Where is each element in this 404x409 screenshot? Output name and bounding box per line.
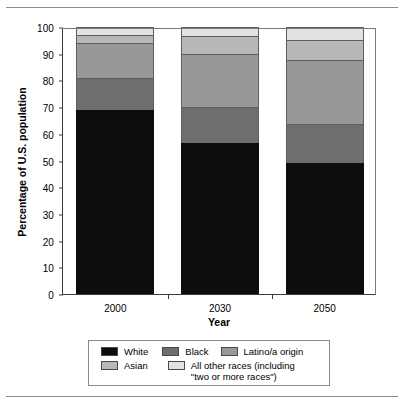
legend-item-label: Black (185, 346, 208, 357)
y-axis-tick-mark (59, 214, 63, 215)
y-axis-label-container: Percentage of U.S. population (14, 28, 30, 295)
legend-item-label: Latino/a origin (244, 346, 304, 357)
legend-item-label: Asian (124, 360, 148, 371)
x-axis-tick-label: 2000 (104, 303, 126, 314)
y-axis-label: Percentage of U.S. population (16, 87, 28, 236)
x-axis-tick-mark (272, 295, 273, 299)
top-divider-rule (6, 7, 398, 8)
y-axis-tick-mark (59, 188, 63, 189)
y-axis-tick-mark (59, 295, 63, 296)
bar-segment (181, 54, 259, 107)
plot-area: 0102030405060708090100200020302050 (62, 28, 376, 295)
bar-segment (76, 43, 154, 78)
legend-item: Black (162, 346, 208, 357)
bar-2050 (286, 27, 364, 294)
bar-2030 (181, 27, 259, 294)
x-axis-tick-mark (168, 295, 169, 299)
bar-segment (286, 27, 364, 40)
y-axis-tick-mark (59, 134, 63, 135)
bar-segment (181, 27, 259, 36)
y-axis-tick-mark (59, 161, 63, 162)
bar-segment (286, 40, 364, 60)
y-axis-tick-mark (59, 54, 63, 55)
legend-color-swatch (162, 347, 179, 356)
legend-item: Latino/a origin (221, 346, 304, 357)
bar-segment (76, 78, 154, 110)
y-axis-tick-mark (59, 81, 63, 82)
legend-item: All other races (including "two or more … (168, 360, 295, 382)
chart-legend: WhiteBlackLatino/a origin AsianAll other… (88, 340, 330, 386)
y-axis-tick-mark (59, 108, 63, 109)
legend-color-swatch (101, 347, 118, 356)
legend-row-2: AsianAll other races (including "two or … (89, 360, 329, 382)
bar-segment (181, 36, 259, 53)
bar-2000 (76, 27, 154, 294)
bar-segment (76, 110, 154, 294)
legend-row-1: WhiteBlackLatino/a origin (89, 346, 329, 357)
legend-item: Asian (101, 360, 148, 371)
legend-item: White (101, 346, 148, 357)
x-axis-tick-label: 2030 (209, 303, 231, 314)
y-axis-tick-mark (59, 28, 63, 29)
bar-segment (76, 35, 154, 43)
y-axis-tick-mark (59, 241, 63, 242)
legend-item-label: All other races (including "two or more … (191, 360, 295, 382)
bar-segment (286, 163, 364, 294)
bar-segment (181, 143, 259, 294)
legend-color-swatch (168, 361, 185, 370)
bottom-divider-rule (6, 396, 398, 397)
bar-segment (76, 27, 154, 35)
x-axis-label: Year (62, 316, 376, 328)
figure: Percentage of U.S. population 0102030405… (0, 0, 404, 409)
legend-color-swatch (101, 361, 118, 370)
legend-item-label: White (124, 346, 148, 357)
y-axis-tick-mark (59, 268, 63, 269)
bar-segment (181, 107, 259, 143)
bar-segment (286, 124, 364, 163)
bar-segment (286, 60, 364, 124)
x-axis-tick-label: 2050 (314, 303, 336, 314)
legend-color-swatch (221, 347, 238, 356)
